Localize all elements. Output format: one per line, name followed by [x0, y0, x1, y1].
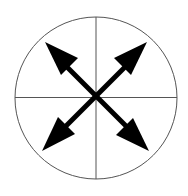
- diagram-canvas: [0, 0, 188, 196]
